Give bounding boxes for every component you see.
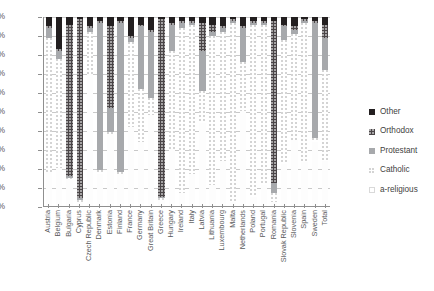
bar-segment-catholic bbox=[322, 70, 328, 161]
x-axis-tick-mark bbox=[222, 204, 223, 208]
bar-segment-catholic bbox=[128, 42, 134, 127]
legend-item-protestant[interactable]: Protestant bbox=[369, 147, 434, 155]
bar-segment-a-religious bbox=[189, 174, 195, 206]
bar-segment-a-religious bbox=[220, 161, 226, 206]
stacked-bar[interactable] bbox=[322, 17, 328, 206]
stacked-bar[interactable] bbox=[87, 17, 93, 206]
stacked-bar[interactable] bbox=[148, 17, 154, 206]
bar-segment-catholic bbox=[169, 51, 175, 149]
stacked-bar[interactable] bbox=[199, 17, 205, 206]
x-axis-tick-label: Bulgaria bbox=[65, 210, 72, 237]
x-axis: AustriaBelgiumBulgariaCyprusCzech Republ… bbox=[43, 208, 330, 291]
stacked-bar[interactable] bbox=[271, 17, 277, 206]
bar-segment-protestant bbox=[46, 28, 52, 37]
bar-segment-other bbox=[148, 17, 154, 30]
legend-swatch-icon bbox=[369, 148, 375, 154]
stacked-bar[interactable] bbox=[312, 17, 318, 206]
stacked-bar[interactable] bbox=[107, 17, 113, 206]
stacked-bar[interactable] bbox=[77, 17, 83, 206]
bar-segment-catholic bbox=[46, 38, 52, 172]
bar-segment-a-religious bbox=[281, 164, 287, 206]
x-axis-label-slot: Estonia bbox=[105, 208, 115, 291]
legend-swatch-icon bbox=[369, 129, 375, 135]
x-axis-tick-mark bbox=[48, 204, 49, 208]
y-axis-tick-label: 60% bbox=[0, 89, 5, 97]
stacked-bar[interactable] bbox=[66, 17, 72, 206]
stacked-bar[interactable] bbox=[128, 17, 134, 206]
stacked-bar[interactable] bbox=[261, 17, 267, 206]
legend-item-a-religious[interactable]: a-religious bbox=[369, 186, 434, 194]
bar-slot bbox=[95, 17, 105, 206]
legend-label: Orthodox bbox=[380, 127, 414, 135]
stacked-bar[interactable] bbox=[138, 17, 144, 206]
bar-slot bbox=[136, 17, 146, 206]
x-axis-label-slot: France bbox=[125, 208, 135, 291]
x-axis-label-slot: Finland bbox=[115, 208, 125, 291]
y-axis-tick-mark bbox=[38, 17, 42, 18]
x-axis-label-slot: Latvia bbox=[197, 208, 207, 291]
bar-slot bbox=[320, 17, 330, 206]
stacked-bar[interactable] bbox=[179, 17, 185, 206]
legend-item-orthodox[interactable]: Orthodox bbox=[369, 128, 434, 136]
stacked-bar[interactable] bbox=[291, 17, 297, 206]
bar-slot bbox=[177, 17, 187, 206]
x-axis-label-slot: Netherlands bbox=[238, 208, 248, 291]
legend-item-other[interactable]: Other bbox=[369, 108, 434, 116]
bar-segment-other bbox=[128, 17, 134, 36]
x-axis-tick-label: Luxembourg bbox=[219, 210, 226, 251]
bar-slot bbox=[248, 17, 258, 206]
x-axis-tick-label: Great Britain bbox=[147, 210, 154, 251]
y-axis-tick-mark bbox=[38, 131, 42, 132]
x-axis-label-slot: Austria bbox=[43, 208, 53, 291]
x-axis-tick-mark bbox=[294, 204, 295, 208]
stacked-bar[interactable] bbox=[117, 17, 123, 206]
x-axis-tick-mark bbox=[263, 204, 264, 208]
stacked-bar[interactable] bbox=[56, 17, 62, 206]
stacked-bar[interactable] bbox=[220, 17, 226, 206]
stacked-bar[interactable] bbox=[97, 17, 103, 206]
x-axis-tick-label: Slovak Republic bbox=[280, 210, 287, 262]
stacked-bar[interactable] bbox=[250, 17, 256, 206]
bar-segment-other bbox=[66, 17, 72, 25]
stacked-bar[interactable] bbox=[301, 17, 307, 206]
bar-segment-other bbox=[107, 17, 113, 26]
stacked-bar[interactable] bbox=[189, 17, 195, 206]
x-axis-label-slot: Luxembourg bbox=[217, 208, 227, 291]
x-axis-tick-mark bbox=[233, 204, 234, 208]
stacked-bar[interactable] bbox=[230, 17, 236, 206]
bar-segment-catholic bbox=[87, 32, 93, 74]
bar-segment-orthodox bbox=[209, 25, 215, 33]
bar-segment-catholic bbox=[209, 36, 215, 185]
bar-segment-catholic bbox=[148, 98, 154, 115]
y-axis-tick-label: 10% bbox=[0, 184, 5, 192]
bar-segment-catholic bbox=[291, 34, 297, 140]
x-axis-tick-mark bbox=[274, 204, 275, 208]
stacked-bar[interactable] bbox=[158, 17, 164, 206]
bar-segment-other bbox=[138, 17, 144, 25]
bar-segment-orthodox bbox=[271, 21, 277, 184]
chart-legend: OtherOrthodoxProtestantCatholica-religio… bbox=[369, 108, 434, 206]
bar-slot bbox=[167, 17, 177, 206]
stacked-bar[interactable] bbox=[281, 17, 287, 206]
legend-item-catholic[interactable]: Catholic bbox=[369, 167, 434, 175]
bar-segment-a-religious bbox=[312, 142, 318, 206]
x-axis-label-slot: Total bbox=[320, 208, 330, 291]
x-axis-label-slot: Greece bbox=[156, 208, 166, 291]
x-axis-tick-label: France bbox=[126, 210, 133, 233]
stacked-bar[interactable] bbox=[240, 17, 246, 206]
x-axis-tick-label: Czech Republic bbox=[85, 210, 92, 261]
x-axis-label-slot: Hungary bbox=[166, 208, 176, 291]
y-axis: 100%90%80%70%60%50%40%30%20%10%0% bbox=[0, 0, 43, 291]
x-axis-tick-label: Finland bbox=[116, 210, 123, 234]
y-axis-tick-label: 0% bbox=[0, 203, 5, 211]
bar-segment-catholic bbox=[220, 32, 226, 161]
x-axis-tick-label: Romania bbox=[270, 210, 277, 239]
x-axis-label-slot: Cyprus bbox=[74, 208, 84, 291]
bar-segment-a-religious bbox=[291, 140, 297, 206]
stacked-bar[interactable] bbox=[46, 17, 52, 206]
y-axis-tick-label: 40% bbox=[0, 127, 5, 135]
stacked-bar[interactable] bbox=[209, 17, 215, 206]
bar-slot bbox=[197, 17, 207, 206]
stacked-bar[interactable] bbox=[169, 17, 175, 206]
bar-segment-other bbox=[56, 17, 62, 49]
